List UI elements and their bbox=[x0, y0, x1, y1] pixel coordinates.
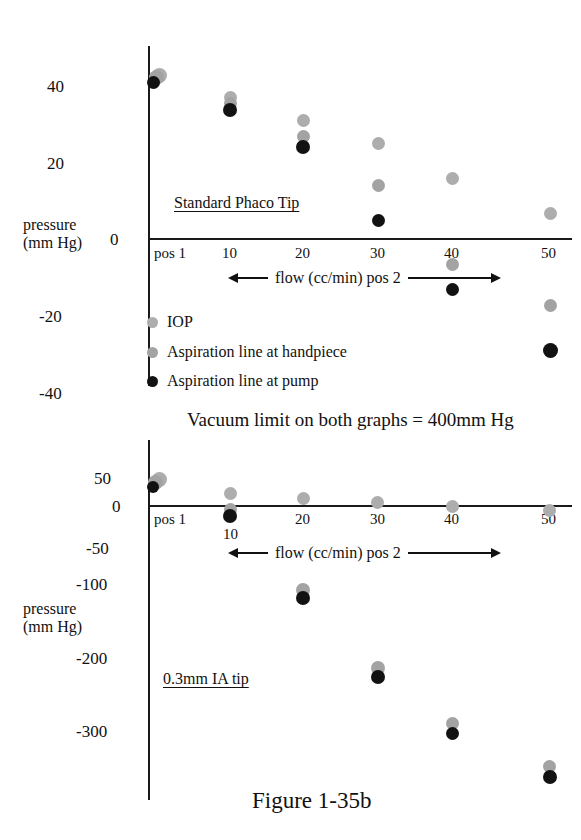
legend-dot-handpiece-icon bbox=[147, 347, 158, 358]
top-chart-ytick-0: 0 bbox=[110, 231, 119, 248]
top-chart-point-handpiece-50 bbox=[544, 299, 557, 312]
bottom-chart-ytick-minus300: -300 bbox=[76, 723, 107, 740]
bottom-chart-xtick-10: 10 bbox=[223, 527, 238, 542]
top-chart-ytick-20: 20 bbox=[47, 155, 64, 172]
top-chart-y-axis bbox=[148, 46, 150, 386]
bottom-chart-point-iop-30 bbox=[371, 496, 384, 509]
bottom-chart-ytick-minus100: -100 bbox=[76, 576, 107, 593]
top-chart-xtick-pos1: pos 1 bbox=[154, 246, 186, 261]
bottom-chart-xtick-pos1: pos 1 bbox=[154, 512, 186, 527]
bottom-chart-point-pump-10 bbox=[223, 509, 237, 523]
top-chart-point-pump-10 bbox=[223, 103, 237, 117]
top-chart-xtick-20: 20 bbox=[295, 246, 310, 261]
top-chart-x-axis-label: flow (cc/min) pos 2 bbox=[275, 270, 401, 286]
top-chart-xtick-50: 50 bbox=[541, 246, 556, 261]
bottom-chart-point-iop-50 bbox=[543, 504, 556, 517]
legend-dot-pump-icon bbox=[147, 376, 158, 387]
bottom-chart-point-pump-pos1 bbox=[147, 481, 159, 493]
top-chart-point-pump-20 bbox=[296, 140, 310, 154]
bottom-chart-point-iop-40 bbox=[446, 500, 459, 513]
bottom-chart-ytick-0: 0 bbox=[112, 498, 121, 515]
top-chart-flow-arrow-annotation: flow (cc/min) pos 2 bbox=[228, 270, 501, 286]
bottom-chart-point-pump-50 bbox=[543, 770, 557, 784]
legend-item-handpiece: Aspiration line at handpiece bbox=[147, 343, 347, 361]
top-chart-point-pump-30 bbox=[372, 214, 385, 227]
bottom-chart-title: 0.3mm IA tip bbox=[163, 671, 249, 687]
top-chart-ytick-minus20: -20 bbox=[39, 308, 62, 325]
legend-dot-iop-icon bbox=[147, 317, 158, 328]
bottom-chart-point-pump-20 bbox=[296, 591, 310, 605]
top-chart-point-iop-30 bbox=[372, 137, 385, 150]
bottom-chart-xtick-40: 40 bbox=[444, 512, 459, 527]
bottom-chart-x-axis-label: flow (cc/min) pos 2 bbox=[275, 545, 401, 561]
top-chart-title: Standard Phaco Tip bbox=[174, 195, 299, 211]
top-chart-y-axis-label-line1: pressure bbox=[23, 216, 76, 234]
bottom-chart-y-axis-label-line1: pressure bbox=[23, 600, 76, 618]
bottom-chart-y-axis bbox=[148, 440, 150, 800]
legend-item-pump: Aspiration line at pump bbox=[147, 372, 319, 390]
arrow-head-right-icon bbox=[491, 548, 501, 558]
bottom-chart-ytick-minus50: -50 bbox=[86, 540, 109, 557]
top-chart-point-pump-40 bbox=[446, 283, 459, 296]
top-chart-xtick-10: 10 bbox=[222, 246, 237, 261]
bottom-chart-xtick-30: 30 bbox=[370, 512, 385, 527]
arrow-line-right bbox=[408, 552, 491, 554]
bottom-chart-point-iop-20 bbox=[297, 492, 310, 505]
arrow-line-left bbox=[238, 552, 268, 554]
bottom-chart-flow-arrow-annotation: flow (cc/min) pos 2 bbox=[228, 545, 501, 561]
arrow-head-left-icon bbox=[228, 548, 238, 558]
top-chart-y-axis-label-line2: (mm Hg) bbox=[23, 234, 82, 252]
bottom-chart-point-pump-30 bbox=[371, 670, 385, 684]
top-chart-ytick-40: 40 bbox=[47, 78, 64, 95]
arrow-head-left-icon bbox=[228, 273, 238, 283]
figure-label: Figure 1-35b bbox=[252, 789, 371, 812]
figure-container: 40 20 0 -20 -40 pressure (mm Hg) pos 1 1… bbox=[0, 0, 581, 840]
legend-label-pump: Aspiration line at pump bbox=[167, 372, 319, 390]
vacuum-limit-caption: Vacuum limit on both graphs = 400mm Hg bbox=[187, 410, 514, 429]
top-chart-point-iop-50 bbox=[544, 207, 557, 220]
bottom-chart-xtick-20: 20 bbox=[295, 512, 310, 527]
top-chart-x-axis-zero-line bbox=[148, 238, 572, 240]
bottom-chart-ytick-50: 50 bbox=[94, 470, 111, 487]
legend-item-iop: IOP bbox=[147, 313, 193, 331]
top-chart-point-handpiece-40 bbox=[446, 258, 459, 271]
top-chart-xtick-30: 30 bbox=[370, 246, 385, 261]
arrow-line-left bbox=[238, 277, 268, 279]
top-chart-point-pump-50 bbox=[543, 343, 558, 358]
bottom-chart-point-iop-10 bbox=[224, 487, 237, 500]
top-chart-point-iop-20 bbox=[297, 114, 310, 127]
bottom-chart-point-pump-40 bbox=[446, 727, 459, 740]
top-chart-point-handpiece-30 bbox=[372, 179, 385, 192]
top-chart-point-pump-pos1 bbox=[147, 76, 160, 89]
arrow-line-right bbox=[408, 277, 491, 279]
bottom-chart-x-axis-zero-line bbox=[148, 505, 572, 507]
top-chart-point-iop-40 bbox=[446, 172, 459, 185]
bottom-chart-ytick-minus200: -200 bbox=[76, 650, 107, 667]
arrow-head-right-icon bbox=[491, 273, 501, 283]
legend-label-handpiece: Aspiration line at handpiece bbox=[167, 343, 347, 361]
top-chart-ytick-minus40: -40 bbox=[39, 385, 62, 402]
legend-label-iop: IOP bbox=[167, 313, 193, 331]
bottom-chart-y-axis-label-line2: (mm Hg) bbox=[23, 618, 82, 636]
